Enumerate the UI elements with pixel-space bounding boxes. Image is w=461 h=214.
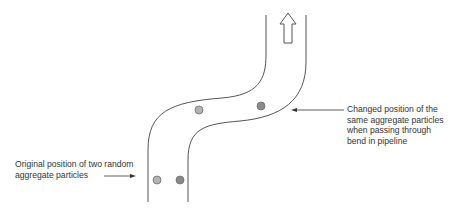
original-particle-dark: [176, 176, 184, 184]
original-position-label: Original position of two random aggregat…: [15, 159, 133, 180]
changed-particle-light: [195, 106, 203, 114]
changed-label-line-2: same aggregate particles: [347, 115, 444, 126]
changed-label-line-3: when passing through: [347, 125, 444, 136]
changed-pointer-arrowhead-icon: [291, 108, 297, 112]
changed-label-line-1: Changed position of the: [347, 104, 444, 115]
pipe-wall-left: [148, 15, 266, 202]
original-label-line-1: Original position of two random: [15, 159, 133, 170]
original-particle-light: [153, 176, 161, 184]
flow-direction-arrow-icon: [280, 13, 296, 43]
original-label-line-2: aggregate particles: [15, 170, 133, 181]
changed-particle-dark: [257, 102, 265, 110]
changed-position-label: Changed position of the same aggregate p…: [347, 104, 444, 146]
changed-label-line-4: bend in pipeline: [347, 136, 444, 147]
